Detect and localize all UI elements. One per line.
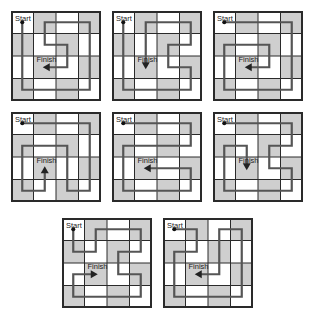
maze-grid: StartFinish — [112, 11, 202, 101]
maze-grid: StartFinish — [213, 11, 303, 101]
start-label: Start — [66, 221, 83, 230]
maze-5: StartFinish — [112, 112, 202, 202]
maze-grid: StartFinish — [11, 11, 101, 101]
finish-label: Finish — [138, 55, 158, 64]
maze-grid: StartFinish — [62, 218, 152, 308]
maze-1: StartFinish — [11, 11, 101, 101]
finish-label: Finish — [239, 55, 259, 64]
start-label: Start — [116, 115, 133, 124]
maze-7: StartFinish — [62, 218, 152, 308]
maze-grid: StartFinish — [213, 112, 303, 202]
finish-label: Finish — [239, 156, 259, 165]
finish-label: Finish — [189, 262, 209, 271]
start-label: Start — [15, 14, 32, 23]
finish-label: Finish — [37, 156, 57, 165]
maze-3: StartFinish — [213, 11, 303, 101]
start-label: Start — [167, 221, 184, 230]
finish-label: Finish — [138, 156, 158, 165]
start-label: Start — [217, 14, 234, 23]
maze-8: StartFinish — [163, 218, 253, 308]
maze-4: StartFinish — [11, 112, 101, 202]
maze-grid: StartFinish — [163, 218, 253, 308]
start-label: Start — [217, 115, 234, 124]
maze-2: StartFinish — [112, 11, 202, 101]
finish-label: Finish — [88, 262, 108, 271]
finish-label: Finish — [37, 55, 57, 64]
start-label: Start — [15, 115, 32, 124]
maze-6: StartFinish — [213, 112, 303, 202]
maze-grid: StartFinish — [112, 112, 202, 202]
start-label: Start — [116, 14, 133, 23]
maze-grid: StartFinish — [11, 112, 101, 202]
